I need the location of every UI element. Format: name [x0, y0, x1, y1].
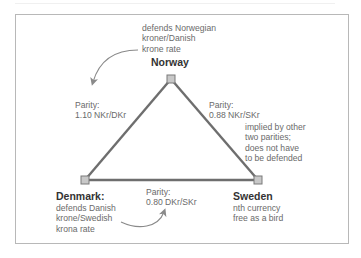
denmark-note-line: krone/Swedish	[56, 213, 116, 223]
norway-note-line: kroner/Danish	[142, 33, 216, 43]
country-denmark: Denmark:	[56, 190, 104, 202]
parity-value: 0.88 NKr/SKr	[209, 110, 260, 120]
implied-note-line: two parities;	[245, 132, 306, 142]
country-sweden: Sweden	[233, 190, 273, 202]
implied-note-line: does not have	[245, 143, 306, 153]
edge-norway-denmark	[85, 79, 171, 180]
implied-note-line: to be defended	[245, 153, 306, 163]
parity-norway-sweden: Parity: 0.88 NKr/SKr	[209, 100, 260, 121]
parity-label: Parity:	[146, 187, 197, 197]
parity-label: Parity:	[75, 100, 126, 110]
parity-norway-denmark: Parity: 1.10 NKr/DKr	[75, 100, 126, 121]
denmark-note-line: defends Danish	[56, 203, 116, 213]
implied-parity-note: implied by other two parities; does not …	[245, 122, 306, 164]
sweden-note-line: nth currency	[233, 203, 283, 213]
denmark-note-line: krona rate	[56, 224, 116, 234]
parity-value: 0.80 DKr/SKr	[146, 197, 197, 207]
parity-value: 1.10 NKr/DKr	[75, 110, 126, 120]
arrow-norway-to-edge-icon	[93, 50, 138, 82]
parity-label: Parity:	[209, 100, 260, 110]
denmark-note: defends Danish krone/Swedish krona rate	[56, 203, 116, 234]
node-sweden-icon	[254, 176, 262, 184]
sweden-note-line: free as a bird	[233, 213, 283, 223]
country-norway: Norway	[151, 56, 189, 68]
norway-note: defends Norwegian kroner/Danish krone ra…	[142, 23, 216, 54]
sweden-note: nth currency free as a bird	[233, 203, 283, 224]
norway-note-line: defends Norwegian	[142, 23, 216, 33]
implied-note-line: implied by other	[245, 122, 306, 132]
arrow-denmark-to-edge-icon	[121, 212, 164, 227]
parity-denmark-sweden: Parity: 0.80 DKr/SKr	[146, 187, 197, 208]
node-norway-icon	[167, 75, 175, 83]
norway-note-line: krone rate	[142, 44, 216, 54]
node-denmark-icon	[81, 176, 89, 184]
